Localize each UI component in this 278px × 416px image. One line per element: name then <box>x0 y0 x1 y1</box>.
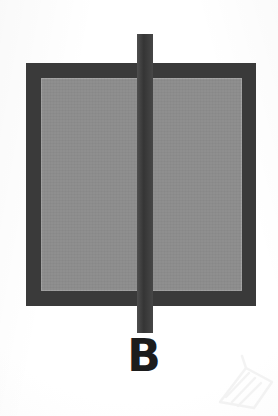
figure-panel-label: B <box>0 334 278 378</box>
vertical-divider-stem <box>137 34 153 333</box>
figure-canvas: B <box>0 0 278 416</box>
